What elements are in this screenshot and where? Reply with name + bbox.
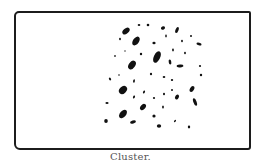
cluster-dot xyxy=(147,24,150,26)
cluster-dot xyxy=(119,38,121,41)
cluster-dot xyxy=(162,106,164,109)
cluster-dot xyxy=(133,79,135,83)
cluster-dot xyxy=(163,76,166,78)
cluster-dot xyxy=(181,40,183,42)
cluster-dot xyxy=(153,97,155,99)
cluster-dot xyxy=(117,108,128,120)
cluster-dot xyxy=(165,35,167,38)
cluster-dot xyxy=(160,26,165,31)
cluster-dot xyxy=(157,124,161,127)
cluster-dot xyxy=(143,90,146,94)
cluster-dot xyxy=(127,59,138,71)
cluster-dot xyxy=(200,74,202,76)
figure-caption: Cluster. xyxy=(0,151,261,162)
cluster-dot xyxy=(117,84,128,95)
cluster-dot xyxy=(140,53,142,55)
cluster-dot xyxy=(172,49,174,52)
cluster-dot xyxy=(130,120,137,125)
cluster-dot xyxy=(171,89,173,91)
cluster-dot xyxy=(192,98,198,107)
cluster-dot xyxy=(138,24,141,26)
cluster-dot xyxy=(114,55,116,57)
cluster-dot xyxy=(199,65,201,67)
cluster-dot xyxy=(139,103,147,112)
cluster-dot xyxy=(184,52,186,54)
cluster-dot xyxy=(124,50,125,51)
cluster-dots xyxy=(0,0,261,166)
cluster-dot xyxy=(152,115,155,118)
cluster-dot xyxy=(196,42,202,46)
cluster-dot xyxy=(190,35,192,37)
cluster-dot xyxy=(151,50,162,64)
cluster-dot xyxy=(168,59,171,65)
dot-group xyxy=(104,24,202,129)
cluster-dot xyxy=(118,74,120,76)
cluster-dot xyxy=(108,77,111,81)
cluster-dot xyxy=(174,94,180,100)
cluster-dot xyxy=(105,102,108,104)
cluster-dot xyxy=(188,126,190,129)
cluster-dot xyxy=(176,64,183,67)
cluster-dot xyxy=(163,93,165,96)
cluster-dot xyxy=(174,26,179,33)
cluster-dot xyxy=(189,85,196,93)
cluster-dot xyxy=(133,95,136,99)
cluster-dot xyxy=(152,42,155,45)
cluster-dot xyxy=(104,119,108,123)
cluster-dot xyxy=(174,119,177,122)
cluster-dot xyxy=(171,79,173,81)
cluster-dot xyxy=(121,26,131,35)
cluster-dot xyxy=(150,73,152,76)
cluster-dot xyxy=(131,35,142,47)
